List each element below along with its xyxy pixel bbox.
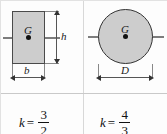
row-divider (1, 93, 167, 94)
height-dimension-line (56, 12, 57, 63)
centroid-label: G (121, 24, 129, 35)
fraction: 3 2 (38, 108, 49, 134)
diameter-dimension-line (99, 77, 152, 78)
k-variable: k (100, 115, 106, 131)
width-arrow-left (10, 75, 15, 81)
fraction-numerator: 4 (121, 108, 128, 122)
fraction-denominator: 2 (40, 123, 47, 134)
diameter-arrow-right (149, 75, 154, 81)
circle-figure-cell: G D (84, 1, 167, 93)
centroid-label: G (24, 25, 32, 36)
equals-sign: = (27, 115, 34, 131)
height-dimension-label: h (60, 31, 68, 42)
fraction-denominator: 3 (121, 123, 128, 134)
height-arrow-top (54, 10, 60, 15)
rectangle-shape-factor-formula: k = 3 2 (19, 108, 49, 134)
circle-shape-factor-formula: k = 4 3 (100, 108, 130, 134)
equals-sign: = (108, 115, 115, 131)
width-arrow-right (41, 75, 46, 81)
rectangle-figure-cell: G h b (1, 1, 83, 93)
fraction-numerator: 3 (40, 108, 47, 122)
shape-factor-figure: G h b G D k = (0, 0, 167, 134)
width-dimension-label: b (23, 65, 31, 76)
diameter-dimension-label: D (120, 65, 130, 76)
height-arrow-bottom (54, 59, 60, 64)
k-variable: k (19, 115, 25, 131)
diameter-arrow-left (96, 75, 101, 81)
fraction: 4 3 (119, 108, 130, 134)
width-dimension-line (13, 77, 44, 78)
